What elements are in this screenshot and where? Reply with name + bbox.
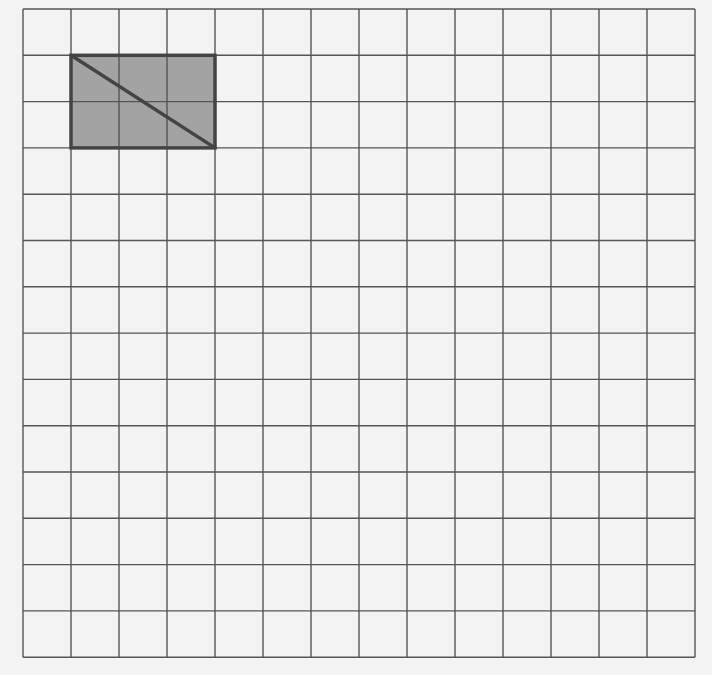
grid-diagram xyxy=(0,0,712,675)
